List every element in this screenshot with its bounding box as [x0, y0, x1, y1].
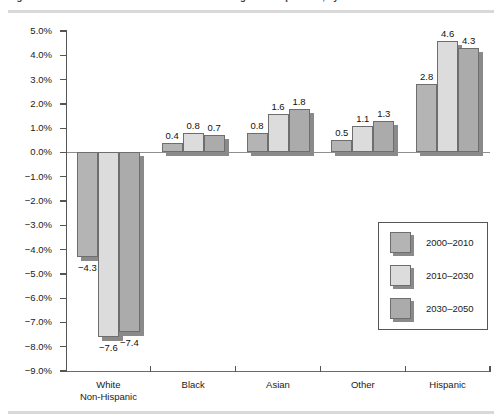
bar[interactable] [204, 135, 225, 152]
y-axis-tick-label: 5.0% [0, 25, 52, 36]
x-axis-category-white-non-hispanic: WhiteNon-Hispanic [66, 379, 151, 402]
x-axis-category-black: Black [151, 379, 236, 391]
bar-value-label: −7.4 [110, 337, 149, 348]
y-axis-tick-label: −1.0% [0, 171, 52, 182]
y-axis-tick-label: −8.0% [0, 341, 52, 352]
category-label-line: Asian [236, 379, 321, 391]
y-axis-tick [60, 273, 67, 274]
y-axis-tick [60, 103, 67, 104]
bar[interactable] [437, 41, 458, 153]
x-axis-line [66, 371, 490, 372]
legend-swatch-icon [390, 298, 411, 319]
category-label-line: White [66, 379, 151, 391]
y-axis-tick [60, 128, 67, 129]
x-axis-tick [405, 366, 406, 372]
y-axis-tick-label: −5.0% [0, 268, 52, 279]
x-axis-tick [320, 366, 321, 372]
x-axis-tick [150, 366, 151, 372]
y-axis-tick-label: 1.0% [0, 122, 52, 133]
y-axis-tick [60, 200, 67, 201]
legend-label: 2000–2010 [426, 237, 474, 248]
y-axis-tick-label: 0.0% [0, 146, 52, 157]
x-axis-category-other: Other [320, 379, 405, 391]
y-axis-tick [60, 79, 67, 80]
bar-value-label: 4.3 [449, 35, 488, 46]
legend-label: 2010–2030 [426, 270, 474, 281]
bar[interactable] [416, 84, 437, 152]
bar[interactable] [373, 121, 394, 153]
y-axis-tick-label: 3.0% [0, 74, 52, 85]
y-axis-tick [60, 55, 67, 56]
y-axis-tick-label: −6.0% [0, 292, 52, 303]
y-axis-tick [60, 370, 67, 371]
y-axis-tick-label: −4.0% [0, 244, 52, 255]
y-axis-tick [60, 225, 67, 226]
bar-value-label: −4.3 [68, 262, 107, 273]
category-label-line: Non-Hispanic [66, 391, 151, 403]
bar[interactable] [98, 152, 119, 337]
legend-label: 2030–2050 [426, 303, 474, 314]
figure-caption: Figure 10.3 Annual Growth in Percentage … [0, 0, 502, 9]
chart-legend: 2000–2010 2010–2030 2030–2050 [378, 222, 488, 330]
y-axis-tick [60, 249, 67, 250]
bar[interactable] [247, 133, 268, 152]
y-axis-tick-label: 2.0% [0, 98, 52, 109]
x-axis-tick [235, 366, 236, 372]
category-label-line: Other [320, 379, 405, 391]
figure-title: Annual Growth in Percentage Points per Y… [118, 0, 364, 2]
y-axis-tick-label: −7.0% [0, 316, 52, 327]
y-axis-tick-label: −3.0% [0, 219, 52, 230]
x-axis-tick [489, 366, 490, 372]
top-divider [8, 10, 494, 13]
bar-value-label: 0.5 [322, 127, 361, 138]
legend-swatch-icon [390, 232, 411, 253]
y-axis-tick [60, 322, 67, 323]
bar[interactable] [119, 152, 140, 332]
bar[interactable] [77, 152, 98, 256]
y-axis-tick-label: −2.0% [0, 195, 52, 206]
legend-swatch-icon [390, 265, 411, 286]
y-axis-tick [60, 298, 67, 299]
y-axis-tick-label: 4.0% [0, 49, 52, 60]
bar[interactable] [331, 140, 352, 152]
y-axis-tick-label: −9.0% [0, 365, 52, 376]
category-label-line: Black [151, 379, 236, 391]
category-label-line: Hispanic [405, 379, 490, 391]
bar-value-label: 1.3 [364, 108, 403, 119]
bar[interactable] [289, 109, 310, 153]
y-axis-tick [60, 346, 67, 347]
bar-value-label: 0.4 [153, 130, 192, 141]
x-axis-category-hispanic: Hispanic [405, 379, 490, 391]
bar-value-label: 0.7 [195, 122, 234, 133]
bar[interactable] [458, 48, 479, 152]
y-axis-tick [60, 176, 67, 177]
y-axis-tick [60, 30, 67, 31]
figure-number: Figure 10.3 [8, 0, 58, 2]
bar-value-label: 1.8 [280, 96, 319, 107]
bar-value-label: 0.8 [238, 120, 277, 131]
x-axis-category-asian: Asian [236, 379, 321, 391]
bar-value-label: 2.8 [407, 71, 446, 82]
bar[interactable] [162, 143, 183, 153]
bottom-divider [8, 411, 494, 414]
y-axis-tick [60, 152, 67, 153]
